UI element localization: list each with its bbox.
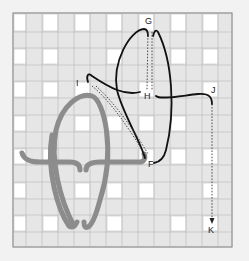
woven-canvas xyxy=(13,13,232,247)
stitch-diagram: G H I J F K xyxy=(0,0,249,261)
label-i: I xyxy=(76,78,79,88)
label-h: H xyxy=(144,91,151,101)
diagram-svg: G H I J F K xyxy=(0,0,249,261)
label-f: F xyxy=(148,159,154,169)
label-k: K xyxy=(208,225,214,235)
label-g: G xyxy=(145,16,152,26)
label-j: J xyxy=(211,85,216,95)
